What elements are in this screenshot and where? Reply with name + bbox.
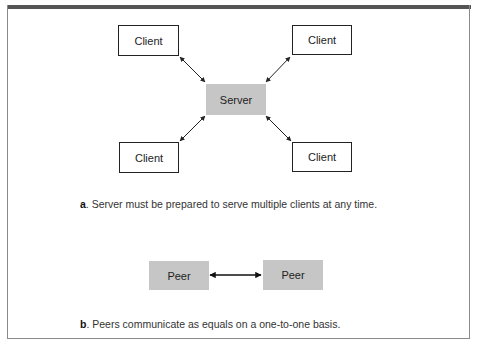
caption-a-text: . Server must be prepared to serve multi… [86, 198, 377, 210]
peer-label: Peer [167, 270, 190, 282]
client-label: Client [308, 34, 336, 46]
peer-box-right: Peer [263, 260, 323, 290]
client-box-bottom-left: Client [119, 142, 179, 173]
arrow-client-tr-server [266, 57, 290, 82]
peer-label: Peer [281, 269, 304, 281]
client-box-top-left: Client [118, 25, 179, 56]
arrow-client-bl-server [180, 116, 205, 141]
client-box-top-right: Client [292, 25, 352, 55]
caption-b: b. Peers communicate as equals on a one-… [80, 318, 340, 330]
arrow-client-tl-server [180, 57, 205, 82]
caption-a: a. Server must be prepared to serve mult… [80, 198, 377, 210]
caption-b-text: . Peers communicate as equals on a one-t… [86, 318, 340, 330]
server-label: Server [220, 94, 252, 106]
client-label: Client [135, 152, 163, 164]
client-label: Client [134, 35, 162, 47]
arrow-client-br-server [266, 116, 291, 141]
client-label: Client [308, 151, 336, 163]
peer-box-left: Peer [149, 261, 209, 290]
client-box-bottom-right: Client [292, 142, 352, 172]
connector-arrows [0, 0, 485, 346]
server-box: Server [206, 84, 266, 115]
